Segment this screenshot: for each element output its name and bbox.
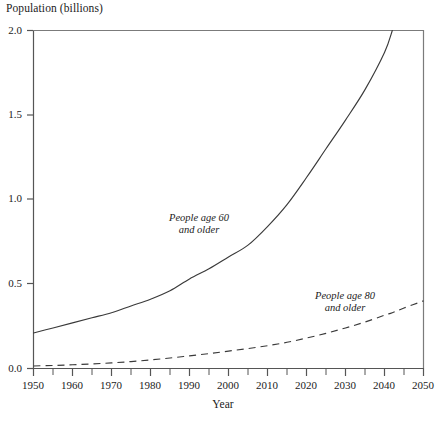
x-axis-title: Year [0, 398, 446, 410]
annotation-age-80-line-1: People age 80 [289, 290, 401, 302]
x-tick-label-2000: 2000 [206, 379, 250, 391]
x-tick-label-1950: 1950 [11, 379, 55, 391]
annotation-age-60-line-1: People age 60 [143, 212, 255, 224]
population-line-chart: Population (billions) Year 2.0 1.5 1.0 0… [0, 0, 446, 424]
x-tick-label-1960: 1960 [50, 379, 94, 391]
y-tick-label-1-0: 1.0 [0, 192, 22, 204]
series-line-age-60 [34, 31, 393, 334]
y-tick-label-1-5: 1.5 [0, 108, 22, 120]
data-series-group [34, 31, 424, 366]
x-tick-label-2020: 2020 [284, 379, 328, 391]
x-tick-label-1990: 1990 [167, 379, 211, 391]
y-tick-label-0-5: 0.5 [0, 277, 22, 289]
series-annotation-age-80: People age 80 and older [289, 290, 401, 314]
series-annotation-age-60: People age 60 and older [143, 212, 255, 236]
y-axis-ticks [27, 31, 33, 369]
x-tick-label-2030: 2030 [323, 379, 367, 391]
x-tick-label-1970: 1970 [89, 379, 133, 391]
x-tick-label-2040: 2040 [362, 379, 406, 391]
x-tick-label-2050: 2050 [401, 379, 445, 391]
annotation-age-80-line-2: and older [289, 302, 401, 314]
x-tick-label-2010: 2010 [245, 379, 289, 391]
y-axis-title: Population (billions) [6, 2, 103, 14]
y-tick-label-2-0: 2.0 [0, 24, 22, 36]
y-tick-label-0-0: 0.0 [0, 362, 22, 374]
annotation-age-60-line-2: and older [143, 224, 255, 236]
x-tick-label-1980: 1980 [128, 379, 172, 391]
